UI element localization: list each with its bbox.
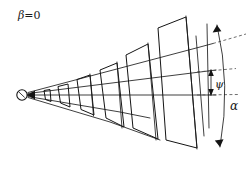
fan-beam-geometry-svg: [0, 0, 252, 188]
psi-angle-dimension: [208, 69, 214, 96]
detector-bar-4: [186, 16, 197, 149]
dashed-upper-extension: [213, 34, 246, 44]
alpha-arrow-top: [213, 25, 222, 33]
detector-bar-3: [148, 43, 156, 140]
lower-outer-ray: [28, 98, 160, 141]
dashed-psi-top-extension: [197, 69, 236, 73]
upper-ray: [28, 44, 213, 93]
alpha-label: α: [230, 100, 238, 112]
psi-label: ψ: [215, 79, 224, 90]
beta-label: β=0: [18, 10, 41, 21]
upper-mid-ray: [28, 70, 216, 94]
alpha-arrow-bottom: [215, 139, 224, 147]
figure-root: β=0 ψ α: [0, 0, 252, 188]
detector-bar-6: [196, 36, 204, 136]
detector-bar-group: [90, 16, 209, 149]
panel-5: [126, 44, 158, 139]
dashed-psi-bottom-extension: [197, 95, 238, 96]
beta-value: =0: [24, 9, 40, 22]
